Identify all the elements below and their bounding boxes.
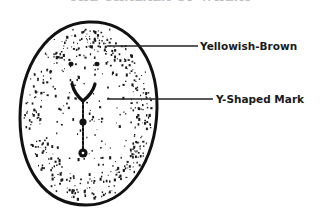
dot-left	[68, 62, 73, 66]
dot-right	[94, 62, 99, 66]
label-yellowish-brown: Yellowish-Brown	[200, 40, 297, 52]
label-y-shaped-mark: Y-Shaped Mark	[216, 93, 304, 105]
seed-diagram	[0, 0, 322, 217]
y-mark-bulb-highlight	[82, 152, 85, 155]
y-mark-knot	[79, 118, 86, 125]
seed-outline	[20, 22, 157, 205]
